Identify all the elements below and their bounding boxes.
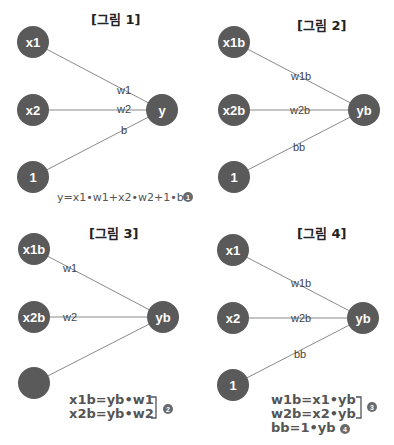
edge-w1: [34, 249, 163, 317]
edge-label-w2: w2: [62, 311, 77, 323]
edge-label-w1: w1: [116, 84, 131, 96]
edge-bias: [34, 317, 163, 383]
node-label-x2b: x2b: [223, 103, 245, 118]
node-label-x2: x2: [226, 311, 240, 326]
figure-2: [그림 2] w1b w2b bb x1b x2b 1 yb: [218, 18, 380, 193]
node-label-bias: 1: [230, 170, 237, 185]
node-label-x2: x2: [26, 103, 40, 118]
edge-b: [33, 110, 162, 177]
node-label-x1b: x1b: [23, 242, 45, 257]
backprop-diagrams: [그림 1] w1 w2 b x1 x2 1 y y=x1•w1+x2•w2+1…: [0, 0, 394, 445]
figure-1-title: [그림 1]: [91, 12, 140, 27]
figure-4: [그림 4] w1b w2b bb x1 x2 1 yb w1b=x1•yb w…: [217, 226, 379, 435]
node-label-yb: yb: [356, 103, 371, 118]
edge-label-w2b: w2b: [290, 312, 311, 324]
node-label-x2b: x2b: [23, 310, 45, 325]
edge-label-bb: bb: [293, 141, 305, 153]
node-label-yb: yb: [155, 310, 170, 325]
formula-4c: bb=1•yb: [271, 420, 336, 435]
node-label-bias: 1: [29, 170, 36, 185]
figure-3-title: [그림 3]: [89, 226, 138, 241]
formula-3a: x1b=yb•w1: [69, 392, 154, 407]
node-label-x1: x1: [26, 35, 40, 50]
figure-1: [그림 1] w1 w2 b x1 x2 1 y y=x1•w1+x2•w2+1…: [17, 12, 193, 204]
formula-3b: x2b=yb•w2: [69, 406, 154, 421]
edge-label-w2: w2: [116, 103, 131, 115]
figure-4-title: [그림 4]: [297, 226, 346, 241]
edge-label-w1b: w1b: [290, 70, 311, 82]
formula-4a: w1b=x1•yb: [271, 392, 356, 407]
node-label-y: y: [158, 103, 166, 118]
formula-4b: w2b=x2•yb: [271, 406, 356, 421]
edge-label-w1b: w1b: [290, 277, 311, 289]
edge-w1: [33, 42, 162, 110]
node-label-yb: yb: [355, 311, 370, 326]
badge-3-label: 3: [370, 404, 374, 411]
bracket-icon: [356, 397, 361, 418]
badge-4-label: 4: [343, 426, 347, 433]
edge-label-b: b: [121, 124, 127, 136]
figure-3: [그림 3] w1 w2 x1b x2b yb x1b=yb•w1 x2b=yb…: [18, 226, 179, 421]
node-label-bias: 1: [229, 378, 236, 393]
badge-1-label: 1: [186, 194, 190, 201]
node-bias-empty: [18, 367, 50, 399]
node-label-x1b: x1b: [223, 35, 245, 50]
node-label-x1: x1: [226, 243, 240, 258]
edge-label-w1: w1: [62, 262, 77, 274]
figure-2-title: [그림 2]: [297, 18, 346, 33]
badge-2-label: 2: [166, 406, 170, 413]
edge-label-w2b: w2b: [289, 104, 310, 116]
edge-label-bb: bb: [294, 348, 306, 360]
formula-1: y=x1•w1+x2•w2+1•b: [57, 191, 184, 204]
